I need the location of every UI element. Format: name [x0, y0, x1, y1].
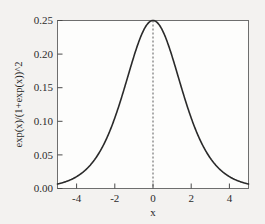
x-axis-title: x — [150, 206, 156, 218]
y-tick-label-0: 0.00 — [34, 182, 54, 194]
y-axis-title: exp(x)/(1+exp(x))^2 — [13, 61, 25, 147]
y-tick-label-3: 0.15 — [34, 81, 54, 93]
x-tick-label-3: 2 — [188, 192, 194, 204]
x-tick-label-2: 0 — [150, 192, 156, 204]
x-tick-label-0: -4 — [72, 192, 82, 204]
y-tick-label-4: 0.20 — [34, 48, 54, 60]
y-tick-label-5: 0.25 — [34, 14, 54, 26]
y-tick-label-2: 0.10 — [34, 115, 54, 127]
x-tick-label-4: 4 — [227, 192, 233, 204]
figure-container: 0.00 0.05 0.10 0.15 0.20 0.25 -4 -2 0 2 … — [0, 0, 265, 224]
y-tick-label-1: 0.05 — [34, 149, 54, 161]
logistic-density-chart: 0.00 0.05 0.10 0.15 0.20 0.25 -4 -2 0 2 … — [0, 0, 265, 224]
x-tick-label-1: -2 — [110, 192, 119, 204]
